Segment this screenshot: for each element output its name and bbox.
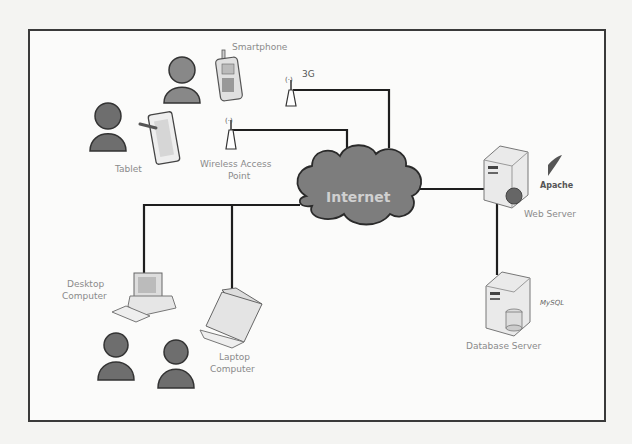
line-3g-internet	[293, 90, 389, 148]
web-server-label: Web Server	[524, 209, 576, 220]
smartphone-label: Smartphone	[232, 42, 287, 53]
desktop-label-line2: Computer	[62, 291, 107, 302]
smartphone-icon	[215, 50, 243, 101]
3g-label: 3G	[302, 69, 315, 80]
svg-text:(·): (·)	[225, 117, 233, 125]
apache-label: Apache	[540, 180, 573, 191]
person-icon-desktop-user	[98, 333, 134, 380]
svg-text:MySQL: MySQL	[540, 299, 564, 307]
tablet-label: Tablet	[115, 164, 142, 175]
wireless-access-point-icon: (·)	[225, 117, 236, 149]
wap-label-line1: Wireless Access	[200, 159, 271, 170]
line-desktop-internet	[144, 205, 300, 276]
mysql-logo-icon: MySQL	[540, 299, 564, 307]
laptop-label-line1: Laptop	[219, 352, 250, 363]
svg-text:(·): (·)	[285, 76, 293, 84]
database-server-icon	[486, 272, 530, 336]
person-icon-laptop-user	[158, 340, 194, 388]
tablet-icon	[140, 111, 180, 164]
network-diagram: (·) (·) MySQL	[0, 0, 632, 444]
desktop-label-line1: Desktop	[67, 279, 104, 290]
database-server-label: Database Server	[466, 341, 541, 352]
laptop-label-line2: Computer	[210, 364, 255, 375]
apache-feather-icon	[548, 155, 562, 176]
internet-label: Internet	[326, 189, 390, 205]
desktop-computer-icon	[112, 273, 176, 322]
person-icon-tablet-user	[90, 103, 126, 151]
wap-label-line2: Point	[228, 171, 250, 182]
web-server-icon	[484, 146, 528, 208]
internet-cloud-icon	[297, 145, 421, 224]
person-icon-smartphone-user	[164, 57, 200, 103]
laptop-computer-icon	[200, 288, 262, 348]
